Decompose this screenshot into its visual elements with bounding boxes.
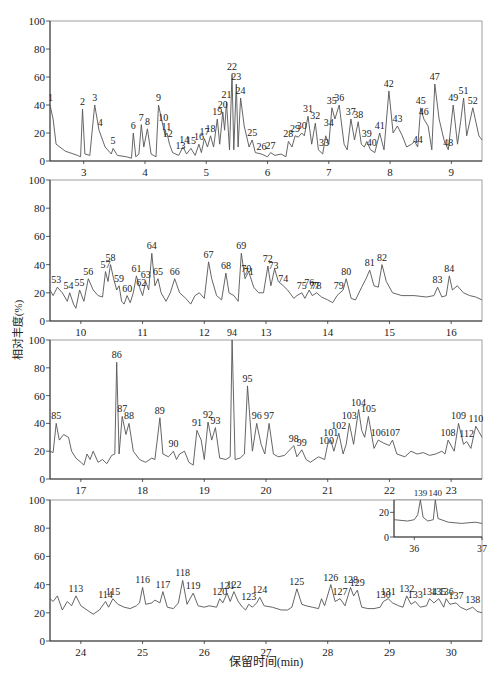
x-tick-label: 3: [81, 166, 87, 178]
peak-label: 139: [414, 488, 428, 498]
y-tick-label: 0: [40, 315, 46, 327]
y-tick-label: 0: [40, 155, 46, 167]
peak-label: 34: [324, 117, 334, 128]
peak-label: 127: [333, 586, 348, 597]
peak-label: 115: [106, 586, 121, 597]
peak-label: 126: [323, 572, 338, 583]
peak-label: 23: [231, 71, 241, 82]
peak-label: 36: [334, 92, 344, 103]
peak-label: 4: [98, 117, 103, 128]
panel-p3: 0204060801001718192021222385868788899091…: [29, 327, 484, 496]
peak-label: 109: [451, 410, 466, 421]
peak-label: 82: [377, 252, 387, 263]
y-tick-label: 60: [34, 71, 46, 83]
peak-label: 124: [252, 584, 267, 595]
x-tick-label: 6: [265, 166, 271, 178]
peak-label: 140: [429, 488, 443, 498]
peak-label: 90: [168, 438, 178, 449]
x-tick-label: 22: [384, 484, 395, 496]
peak-label: 65: [153, 266, 163, 277]
peak-label: 8: [145, 116, 150, 127]
peak-label: 78: [312, 280, 322, 291]
y-tick-label: 100: [29, 334, 46, 346]
x-tick-label: 13: [261, 326, 273, 338]
y-tick-label: 20: [379, 507, 389, 518]
peak-label: 3: [92, 92, 97, 103]
peak-label: 24: [236, 85, 246, 96]
y-tick-label: 20: [34, 607, 46, 619]
peak-label: 99: [297, 437, 307, 448]
y-tick-label: 40: [34, 417, 46, 429]
peak-label: 85: [51, 410, 61, 421]
panel-p2: 0204060801001011121314151653545556575859…: [29, 174, 483, 338]
peak-label: 64: [147, 240, 157, 251]
peak-label: 138: [465, 594, 480, 605]
peak-label: 45: [416, 95, 426, 106]
x-tick-label: 5: [204, 166, 210, 178]
peak-label: 117: [156, 579, 171, 590]
peak-label: 110: [469, 413, 484, 424]
peak-label: 91: [192, 417, 202, 428]
peak-label: 41: [375, 120, 385, 131]
peak-label: 129: [350, 577, 365, 588]
x-tick-label: 18: [137, 484, 149, 496]
peak-label: 113: [69, 583, 84, 594]
peak-label: 122: [226, 579, 241, 590]
peak-label: 95: [242, 373, 252, 384]
y-tick-label: 40: [34, 259, 46, 271]
peak-label: 89: [155, 405, 165, 416]
y-tick-label: 0: [40, 473, 46, 485]
peak-label: 80: [341, 266, 351, 277]
peak-label: 7: [139, 112, 144, 123]
y-tick-label: 40: [34, 99, 46, 111]
y-axis-label: 相对丰度(%): [11, 299, 25, 360]
peak-label: 53: [51, 274, 61, 285]
peak-label: 131: [381, 586, 396, 597]
peak-label: 30: [297, 120, 307, 131]
peak-label: 86: [112, 349, 122, 360]
peak-label: 69: [236, 240, 246, 251]
peak-label: 74: [278, 273, 288, 284]
peak-label: 48: [443, 137, 453, 148]
peak-label: 108: [441, 427, 456, 438]
x-tick-label: 8: [387, 166, 393, 178]
x-tick-label: 10: [75, 326, 87, 338]
peak-label: 20: [218, 99, 228, 110]
peak-label: 93: [210, 415, 220, 426]
x-tick-label: 7: [326, 166, 332, 178]
peak-label: 60: [122, 283, 132, 294]
x-tick-label: 24: [75, 646, 87, 658]
chromatogram-figure: 0204060801003456789123456789101112131415…: [0, 0, 499, 688]
y-tick-label: 80: [34, 202, 46, 214]
peak-label: 102: [331, 420, 346, 431]
y-tick-label: 80: [34, 362, 46, 374]
peak-label: 97: [264, 410, 274, 421]
peak-label: 119: [186, 580, 201, 591]
peak-label: 55: [75, 277, 85, 288]
x-tick-label: 23: [446, 484, 458, 496]
x-tick-label: 29: [384, 646, 396, 658]
peak-label: 66: [170, 266, 180, 277]
peak-label: 79: [334, 280, 344, 291]
peak-label: 107: [385, 427, 400, 438]
peak-label: 112: [459, 428, 474, 439]
y-tick-label: 20: [34, 287, 46, 299]
y-tick-label: 80: [34, 522, 46, 534]
peak-label: 84: [444, 263, 454, 274]
peak-label: 116: [135, 574, 150, 585]
peak-label: 105: [361, 403, 376, 414]
peak-label: 58: [105, 252, 115, 263]
peak-label: 52: [468, 95, 478, 106]
x-tick-label: 30: [446, 646, 458, 658]
x-tick-label: 36: [409, 543, 419, 554]
peak-label: 44: [413, 134, 423, 145]
y-tick-label: 0: [384, 532, 389, 543]
y-tick-label: 80: [34, 43, 46, 55]
y-tick-label: 20: [34, 127, 46, 139]
x-tick-label: 14: [322, 326, 334, 338]
peak-label: 94: [227, 327, 237, 338]
peak-label: 12: [163, 128, 173, 139]
x-tick-label: 28: [322, 646, 334, 658]
peak-label: 43: [392, 113, 402, 124]
peak-label: 68: [221, 260, 231, 271]
